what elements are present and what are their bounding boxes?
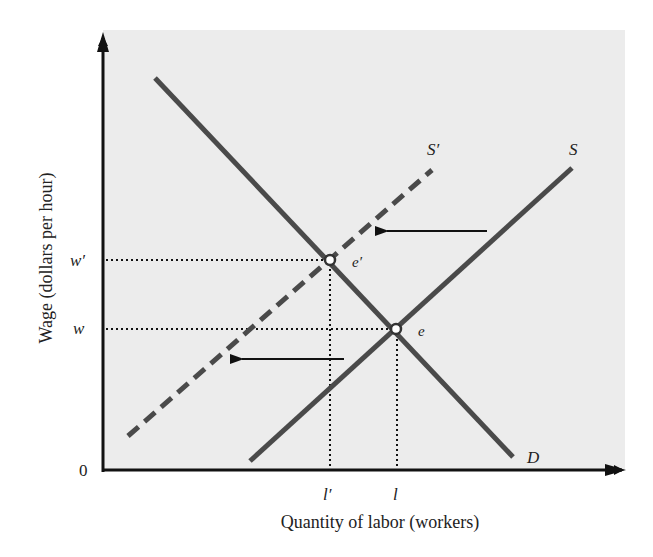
y-tick-w: w bbox=[73, 319, 85, 338]
label-S-prime: S′ bbox=[427, 140, 440, 159]
x-tick-l-prime: l′ bbox=[323, 485, 332, 504]
label-e: e bbox=[418, 323, 425, 339]
labor-market-chart: S′ S D e′ e w′ w 0 l′ l Quantity of labo… bbox=[0, 0, 653, 557]
equilibrium-point-e bbox=[391, 324, 401, 334]
x-tick-l: l bbox=[393, 485, 398, 504]
label-e-prime: e′ bbox=[352, 254, 363, 270]
plot-background bbox=[103, 30, 625, 470]
label-S: S bbox=[569, 140, 578, 159]
y-axis-title: Wage (dollars per hour) bbox=[36, 173, 57, 344]
y-tick-w-prime: w′ bbox=[70, 251, 85, 270]
origin-label: 0 bbox=[79, 461, 88, 480]
x-axis-title: Quantity of labor (workers) bbox=[281, 512, 479, 533]
equilibrium-point-e-prime bbox=[325, 255, 335, 265]
label-D: D bbox=[526, 448, 540, 467]
